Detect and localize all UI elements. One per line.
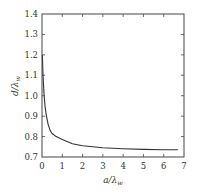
x-tick-label: 6: [161, 161, 166, 171]
y-tick-label: 1.3: [24, 29, 38, 39]
x-tick-label: 7: [181, 161, 186, 171]
data-series-line: [42, 55, 178, 150]
chart: 01234567 0.70.80.91.01.11.21.31.4 a/λw d…: [0, 0, 197, 193]
series-line: [42, 55, 178, 150]
x-tick-label: 2: [80, 161, 85, 171]
y-tick-label: 1.4: [24, 9, 38, 19]
x-axis-label: a/λw: [103, 175, 123, 187]
y-tick-label: 1.0: [24, 91, 38, 101]
x-tick-label: 3: [100, 161, 105, 171]
x-tick-label: 1: [60, 161, 65, 171]
y-tick-label: 1.2: [24, 50, 38, 60]
y-tick-label: 1.1: [24, 70, 38, 80]
x-tick-label: 4: [120, 161, 125, 171]
axes-frame: [42, 14, 184, 157]
x-axis-ticks: 01234567: [39, 14, 186, 171]
x-tick-label: 5: [141, 161, 146, 171]
y-axis-label: d/λw: [10, 76, 22, 97]
x-tick-label: 0: [39, 161, 44, 171]
y-tick-label: 0.9: [24, 111, 38, 121]
y-tick-label: 0.8: [24, 132, 38, 142]
y-tick-label: 0.7: [24, 152, 38, 162]
y-axis-ticks: 0.70.80.91.01.11.21.31.4: [24, 9, 184, 162]
